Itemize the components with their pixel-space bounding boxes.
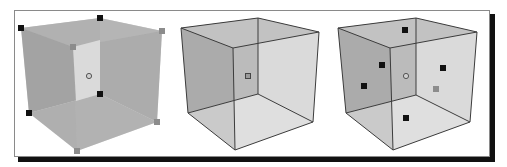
corner-handle-icon[interactable] (154, 119, 160, 125)
cube-illustrations (0, 0, 507, 167)
face-handle-icon[interactable] (403, 115, 409, 121)
face-handle-icon[interactable] (379, 62, 385, 68)
cube-face-handles[interactable] (338, 18, 477, 150)
center-marker-icon[interactable] (246, 74, 251, 79)
cube-front-left-face (21, 28, 77, 151)
face-handle-icon[interactable] (361, 83, 367, 89)
cube-plain[interactable] (181, 18, 319, 150)
center-marker-icon[interactable] (403, 73, 408, 78)
cube-selected-bounding-box[interactable] (18, 15, 165, 154)
face-handle-icon[interactable] (440, 65, 446, 71)
cube-front-left-face (181, 28, 235, 150)
face-handle-icon[interactable] (402, 27, 408, 33)
center-marker-icon[interactable] (86, 73, 91, 78)
corner-handle-icon[interactable] (18, 25, 24, 31)
corner-handle-icon[interactable] (26, 110, 32, 116)
corner-handle-icon[interactable] (70, 44, 76, 50)
corner-handle-icon[interactable] (159, 28, 165, 34)
cube-front-right-face (233, 32, 319, 150)
face-handle-icon[interactable] (433, 86, 439, 92)
corner-handle-icon[interactable] (97, 91, 103, 97)
corner-handle-icon[interactable] (74, 148, 80, 154)
corner-handle-icon[interactable] (97, 15, 103, 21)
cube-inner-highlight (73, 40, 100, 101)
